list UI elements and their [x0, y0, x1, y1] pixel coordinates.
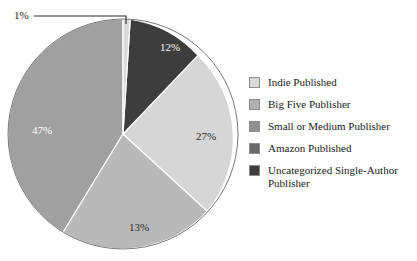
slice-value-1-callout: 1% — [14, 9, 29, 21]
legend-swatch-big-five-publisher — [249, 99, 260, 110]
legend-label-uncategorized-single-author-publisher: Uncategorized Single-Author Publisher — [268, 164, 415, 190]
slice-value-13: 13% — [129, 221, 149, 233]
legend-swatch-indie-published — [249, 77, 260, 88]
slice-value-12: 12% — [160, 41, 180, 53]
legend-swatch-uncategorized-single-author-publisher — [249, 165, 260, 176]
legend-label-indie-published: Indie Published — [268, 76, 337, 89]
legend-item-indie-published[interactable]: Indie Published — [249, 76, 415, 89]
pie-chart-figure: 12% 27% 13% 47% 1% Indie Published Big F… — [0, 0, 417, 261]
chart-legend: Indie Published Big Five Publisher Small… — [249, 76, 415, 190]
legend-label-big-five-publisher: Big Five Publisher — [268, 98, 351, 111]
legend-item-big-five-publisher[interactable]: Big Five Publisher — [249, 98, 415, 111]
legend-label-small-or-medium-publisher: Small or Medium Publisher — [268, 120, 390, 133]
slice-value-47: 47% — [32, 124, 52, 136]
legend-swatch-amazon-published — [249, 143, 260, 154]
legend-item-uncategorized-single-author-publisher[interactable]: Uncategorized Single-Author Publisher — [249, 164, 415, 190]
legend-swatch-small-or-medium-publisher — [249, 121, 260, 132]
legend-item-small-or-medium-publisher[interactable]: Small or Medium Publisher — [249, 120, 415, 133]
slice-value-27: 27% — [196, 130, 216, 142]
legend-label-amazon-published: Amazon Published — [268, 142, 351, 155]
legend-item-amazon-published[interactable]: Amazon Published — [249, 142, 415, 155]
